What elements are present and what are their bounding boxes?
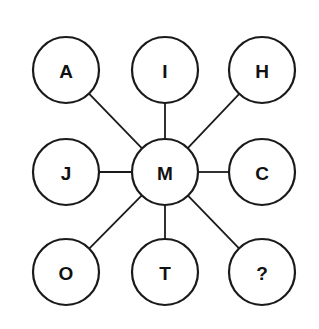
- connector-line-bottom-right: [188, 196, 239, 249]
- letter-nodes: MAIHJCOT?: [33, 37, 295, 305]
- center-node: M: [132, 139, 198, 205]
- node-top-left-label: A: [59, 61, 73, 82]
- node-top-center-label: I: [162, 61, 167, 82]
- node-middle-left-label: J: [61, 163, 72, 184]
- node-bottom-right: ?: [229, 239, 295, 305]
- node-middle-left: J: [33, 139, 99, 205]
- center-node-label: M: [157, 163, 173, 184]
- node-middle-right-label: C: [255, 163, 269, 184]
- connector-line-top-left: [89, 94, 142, 149]
- node-top-left: A: [33, 37, 99, 103]
- connector-line-bottom-left: [89, 195, 142, 248]
- node-bottom-right-label: ?: [256, 263, 268, 284]
- node-bottom-left: O: [33, 239, 99, 305]
- node-bottom-left-label: O: [59, 263, 74, 284]
- node-bottom-center-label: T: [159, 263, 171, 284]
- node-middle-right: C: [229, 139, 295, 205]
- node-top-right-label: H: [255, 61, 269, 82]
- node-top-center: I: [132, 37, 198, 103]
- node-top-right: H: [229, 37, 295, 103]
- connector-line-top-right: [188, 94, 240, 148]
- node-bottom-center: T: [132, 239, 198, 305]
- puzzle-diagram: MAIHJCOT?: [0, 0, 319, 329]
